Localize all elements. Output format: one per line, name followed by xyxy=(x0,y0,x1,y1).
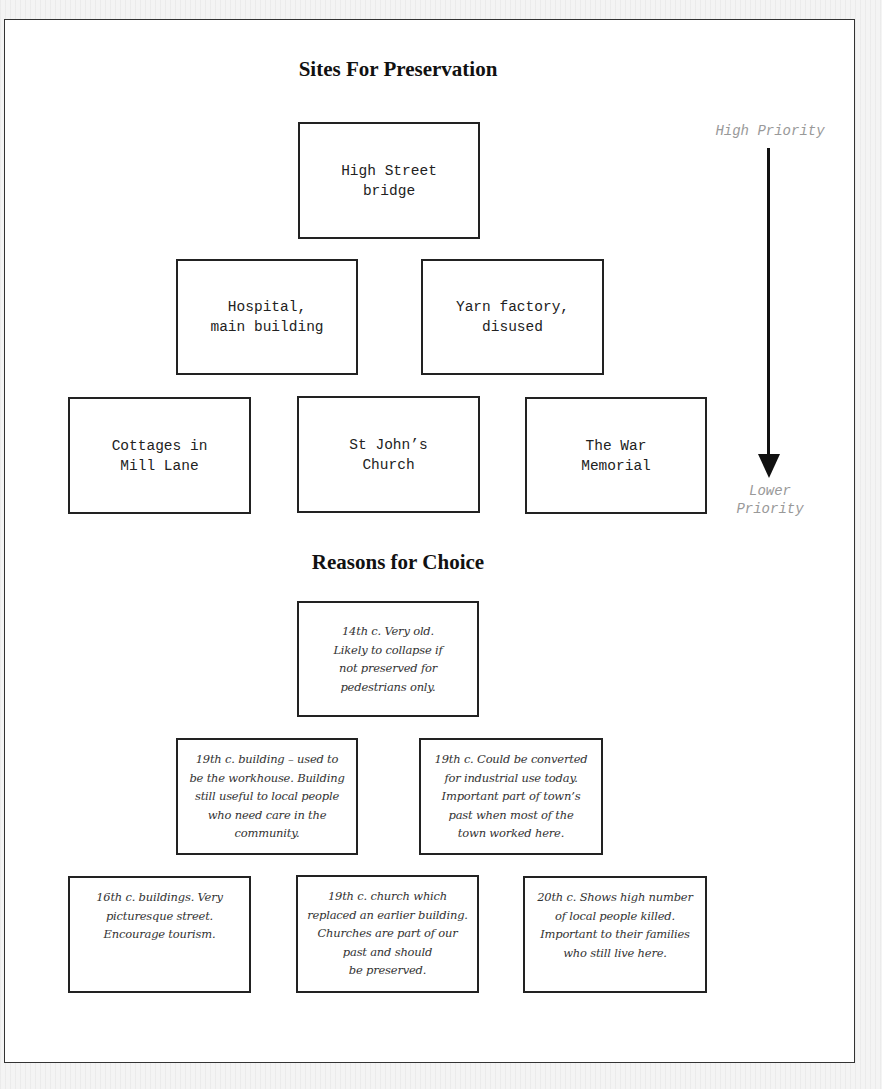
reason-text: 19th c. church which replaced an earlier… xyxy=(307,887,468,980)
reason-box-st-johns-church: 19th c. church which replaced an earlier… xyxy=(296,875,479,993)
reason-text: 14th c. Very old. Likely to collapse if … xyxy=(333,622,442,696)
reason-box-cottages: 16th c. buildings. Very picturesque stre… xyxy=(68,876,251,993)
reason-box-hospital: 19th c. building – used to be the workho… xyxy=(176,738,358,855)
site-box-high-street-bridge: High Street bridge xyxy=(298,122,480,239)
down-arrow-icon xyxy=(758,454,780,478)
reason-text: 19th c. building – used to be the workho… xyxy=(189,750,344,843)
site-label: Cottages in Mill Lane xyxy=(112,436,208,476)
lower-priority-label: Lower Priority xyxy=(720,482,820,518)
site-box-yarn-factory: Yarn factory, disused xyxy=(421,259,604,375)
reason-box-war-memorial: 20th c. Shows high number of local peopl… xyxy=(523,876,707,993)
site-box-cottages: Cottages in Mill Lane xyxy=(68,397,251,514)
site-label: High Street bridge xyxy=(341,161,437,201)
site-box-war-memorial: The War Memorial xyxy=(525,397,707,514)
high-priority-label: High Priority xyxy=(700,122,840,140)
reason-text: 19th c. Could be converted for industria… xyxy=(435,750,588,843)
reason-box-high-street-bridge: 14th c. Very old. Likely to collapse if … xyxy=(297,601,479,717)
reason-text: 16th c. buildings. Very picturesque stre… xyxy=(96,888,223,944)
site-box-hospital: Hospital, main building xyxy=(176,259,358,375)
reason-box-yarn-factory: 19th c. Could be converted for industria… xyxy=(419,738,603,855)
reasons-title: Reasons for Choice xyxy=(0,550,796,575)
sites-title: Sites For Preservation xyxy=(0,57,796,82)
site-box-st-johns-church: St John’s Church xyxy=(297,396,480,513)
priority-arrow-shaft xyxy=(767,148,770,458)
site-label: St John’s Church xyxy=(349,435,427,475)
site-label: Hospital, main building xyxy=(210,297,323,337)
site-label: Yarn factory, disused xyxy=(456,297,569,337)
reason-text: 20th c. Shows high number of local peopl… xyxy=(537,888,693,962)
site-label: The War Memorial xyxy=(581,436,651,476)
